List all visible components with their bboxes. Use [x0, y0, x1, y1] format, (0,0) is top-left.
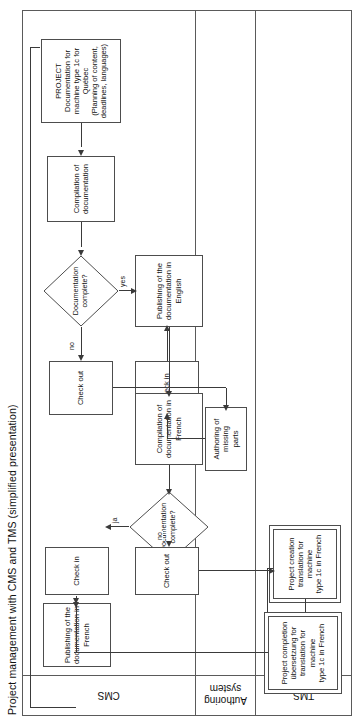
swimlane-pool: CMS Authoringsystem TMS PROJECTDocumenta…	[22, 10, 352, 716]
node-compilation-documentation[interactable]: Compilation ofdocumentation	[47, 156, 115, 222]
diagram-stage: Project management with CMS and TMS (sim…	[0, 0, 358, 721]
node-compilation-french-text: Compilation ofdocumentation inFrench	[155, 400, 182, 458]
node-project-creation-tms-text: Project creationtranslation for machinet…	[287, 532, 323, 596]
node-decision-documentation-complete-en[interactable]: Documentationcomplete?	[43, 255, 119, 327]
edge-checkin-en-to-publishing-en	[167, 327, 168, 361]
edge-authoring-to-checkin-en-v	[167, 438, 205, 439]
node-check-out-en[interactable]: Check out	[49, 361, 113, 415]
node-publishing-french[interactable]: Publishing of thedocumentation inFrench	[43, 603, 111, 667]
node-project-creation-tms[interactable]: Project creationtranslation for machinet…	[273, 529, 337, 599]
node-decision-en-text: Documentationcomplete?	[43, 255, 119, 327]
lane-separator-authoring-tms	[255, 11, 256, 715]
node-compilation-documentation-text: Compilation ofdocumentation	[72, 164, 90, 214]
arrow-decision-en-no	[78, 355, 84, 361]
arrow-publishing-en-to-compilation-fr	[166, 391, 172, 397]
node-project[interactable]: PROJECTDocumentation formachine type 1c …	[41, 39, 121, 123]
node-project-completion-tms[interactable]: Project completionübersetzung fortransla…	[268, 616, 338, 690]
node-publishing-french-text: Publishing of thedocumentation inFrench	[63, 606, 90, 664]
edge-label-decision-en-yes: yes	[119, 275, 126, 288]
arrow-decision-fr-no	[166, 541, 172, 547]
node-compilation-french[interactable]: Compilation ofdocumentation inFrench	[135, 393, 203, 465]
lane-label-authoring-text: Authoringsystem	[204, 684, 247, 707]
lane-label-tms-text: TMS	[293, 689, 314, 701]
edge-label-decision-fr-no: no	[156, 531, 163, 541]
lane-label-authoring: Authoringsystem	[195, 675, 255, 715]
edge-publishing-en-to-compilation-fr	[169, 327, 170, 393]
diagram-canvas: Project management with CMS and TMS (sim…	[0, 0, 358, 721]
node-publishing-english[interactable]: Publishing of thedocumentation inEnglish	[135, 255, 203, 327]
node-check-out-en-text: Check out	[76, 371, 85, 405]
node-publishing-english-text: Publishing of thedocumentation inEnglish	[155, 262, 182, 320]
edge-project-to-compilation	[81, 123, 82, 147]
node-check-out-fr-text: Check out	[162, 554, 171, 588]
arrow-compilation-to-decision-en	[78, 250, 84, 256]
arrow-checkout-en-to-authoring	[223, 405, 229, 411]
node-project-text: PROJECTDocumentation formachine type 1c …	[54, 44, 109, 118]
arrow-compilation-fr-to-decision-fr	[166, 489, 172, 495]
edge-compilation-fr-to-decision-fr	[169, 465, 170, 491]
edge-translating-to-completion-v2	[267, 568, 273, 569]
node-check-in-fr[interactable]: Check in	[45, 547, 109, 595]
edge-label-decision-en-no: no	[68, 341, 75, 351]
edge-label-decision-fr-yes: ja	[111, 517, 118, 524]
node-check-out-fr[interactable]: Check out	[135, 547, 199, 595]
node-check-in-fr-text: Check in	[72, 556, 81, 586]
edge-decision-fr-yes	[111, 526, 129, 527]
lane-label-cms: CMS	[23, 675, 195, 715]
arrow-checkout-fr-to-project-creation	[269, 569, 275, 575]
lane-label-cms-text: CMS	[98, 689, 120, 701]
arrow-decision-fr-yes	[105, 525, 111, 531]
arrow-authoring-to-checkin-en	[164, 413, 170, 419]
arrow-decision-en-yes	[131, 289, 137, 295]
diagram-title: Project management with CMS and TMS (sim…	[6, 404, 18, 715]
edge-checkout-fr-to-project-creation	[199, 570, 273, 571]
edge-compilation-to-decision-en	[81, 222, 82, 247]
arrow-project-to-compilation	[78, 150, 84, 156]
node-authoring-missing-parts[interactable]: Authoring of missingparts	[205, 407, 247, 471]
node-authoring-missing-parts-text: Authoring of missingparts	[212, 410, 239, 468]
edge-decision-en-no	[81, 327, 82, 357]
node-project-completion-tms-text: Project completionübersetzung fortransla…	[280, 619, 326, 687]
